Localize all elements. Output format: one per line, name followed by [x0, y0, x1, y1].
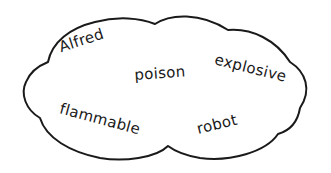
word-poison: poison [134, 64, 186, 83]
cloud-outline [0, 0, 331, 173]
word-cloud-diagram: Alfred poison explosive flammable robot [0, 0, 331, 173]
